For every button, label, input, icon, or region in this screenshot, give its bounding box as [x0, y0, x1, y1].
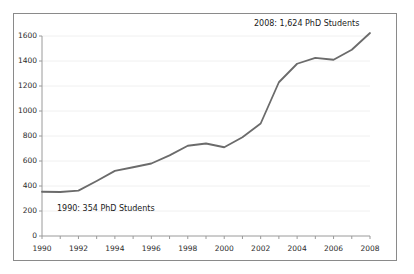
y-tick-label: 1400: [0, 57, 37, 65]
x-tick-label: 2000: [209, 245, 239, 253]
y-tick-label: 600: [0, 157, 37, 165]
y-tick-label: 400: [0, 182, 37, 190]
x-tick-label: 1994: [100, 245, 130, 253]
y-tick-label: 1000: [0, 107, 37, 115]
x-tick-label: 2008: [355, 245, 385, 253]
y-tick-label: 200: [0, 207, 37, 215]
end-value-annotation: 2008: 1,624 PhD Students: [254, 20, 359, 28]
data-series-line: [42, 33, 370, 192]
phd-students-line-chart: 02004006008001000120014001600 1990199219…: [0, 0, 414, 274]
y-tick-label: 800: [0, 132, 37, 140]
x-tick-label: 1990: [27, 245, 57, 253]
x-tick-label: 1998: [173, 245, 203, 253]
x-tick-label: 2004: [282, 245, 312, 253]
y-tick-label: 1600: [0, 32, 37, 40]
y-tick-label: 0: [0, 232, 37, 240]
x-tick-label: 1996: [136, 245, 166, 253]
plot-area: [13, 13, 397, 261]
y-tick-label: 1200: [0, 82, 37, 90]
x-tick-label: 2002: [246, 245, 276, 253]
start-value-annotation: 1990: 354 PhD Students: [57, 205, 155, 213]
x-tick-label: 1992: [63, 245, 93, 253]
x-tick-label: 2006: [319, 245, 349, 253]
